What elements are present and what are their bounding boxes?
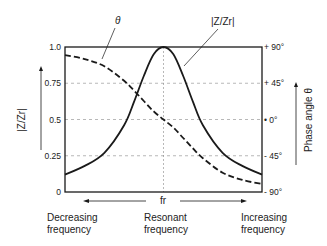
right-tick-label: - 45° (264, 151, 282, 161)
right-tick-label: • 0° (264, 115, 277, 125)
caption-increasing-line2: frequency (241, 224, 285, 235)
z-annotation: |Z/Zr| (211, 16, 235, 27)
right-axis-ticks: - 90°- 45°• 0°+ 45°+ 90° (264, 42, 284, 197)
caption-resonant-line2: frequency (144, 224, 188, 235)
decreasing-arrowhead-icon (83, 199, 89, 203)
resonance-chart: 00.250.50.751.0 - 90°- 45°• 0°+ 45°+ 90°… (0, 0, 327, 246)
left-tick-label: 1.0 (49, 42, 61, 52)
left-axis-ticks: 00.250.50.751.0 (44, 42, 61, 197)
increasing-arrowhead-icon (241, 199, 247, 203)
right-axis-arrowhead-icon (294, 82, 298, 87)
right-axis-title: Phase angle θ (303, 88, 314, 152)
caption-increasing-line1: Increasing (241, 212, 287, 223)
fr-label: fr (160, 195, 167, 206)
caption-decreasing-line2: frequency (47, 224, 91, 235)
left-tick-label: 0.25 (44, 151, 61, 161)
left-axis-arrowhead-icon (39, 66, 43, 71)
right-tick-label: + 90° (264, 42, 284, 52)
left-tick-label: 0.75 (44, 78, 61, 88)
left-axis-title: |Z/Zr| (16, 108, 27, 132)
right-tick-label: - 90° (264, 187, 282, 197)
caption-resonant-line1: Resonant (144, 212, 187, 223)
right-tick-label: + 45° (264, 78, 284, 88)
left-tick-label: 0 (56, 187, 61, 197)
theta-annotation: θ (115, 15, 121, 26)
left-tick-label: 0.5 (49, 115, 61, 125)
theta-leader-line (102, 28, 115, 59)
caption-decreasing-line1: Decreasing (47, 212, 98, 223)
